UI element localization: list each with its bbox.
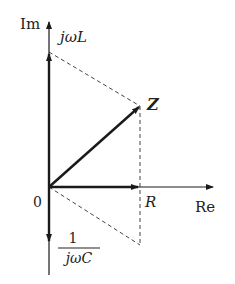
dashed-line-L-to-Z [49, 52, 140, 106]
R-label: R [144, 193, 156, 211]
jwL-label: jωL [57, 28, 87, 46]
origin-label: 0 [33, 194, 42, 210]
dashed-guides [49, 52, 140, 245]
im-axis-label: Im [20, 15, 40, 33]
dashed-line-origin-to-bottom [49, 187, 140, 245]
vector-Z [49, 107, 139, 187]
fraction-numerator: 1 [69, 230, 78, 246]
phasor-diagram: Im Re 0 jωL R Z 1 jωC [0, 0, 235, 284]
re-axis-label: Re [195, 198, 215, 216]
capacitor-fraction-label: 1 jωC [58, 230, 100, 266]
fraction-denominator: jωC [63, 250, 93, 266]
Z-label: Z [146, 95, 160, 114]
